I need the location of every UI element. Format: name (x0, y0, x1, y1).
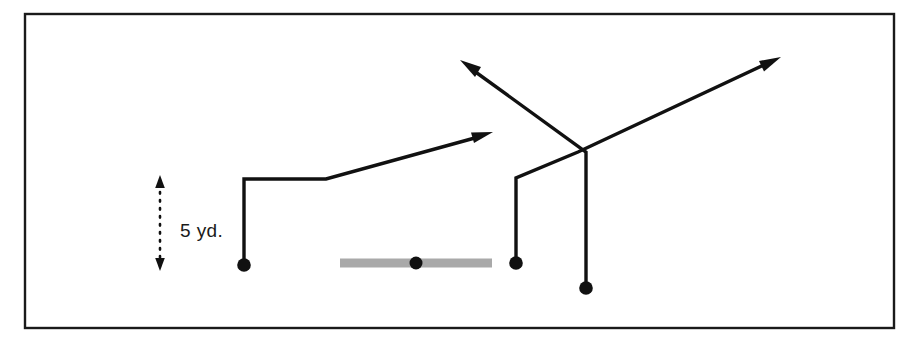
center-ball-dot (410, 257, 423, 270)
play-diagram-canvas: 5 yd. (0, 0, 912, 348)
player-start-dot (237, 258, 251, 272)
player-start-dot (579, 281, 593, 295)
play-diagram-root: 5 yd. (0, 0, 912, 348)
measurement-label: 5 yd. (180, 220, 223, 241)
player-start-dot (509, 256, 523, 270)
